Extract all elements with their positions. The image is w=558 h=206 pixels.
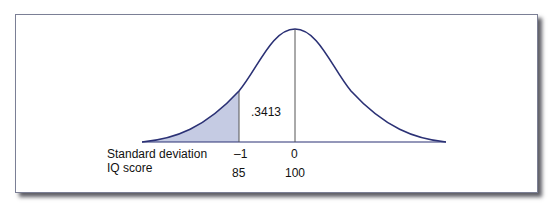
iq-tick-85: 85 xyxy=(232,166,245,180)
area-value-label: .3413 xyxy=(251,105,281,119)
normal-curve-plot xyxy=(0,0,558,206)
shaded-tail-area xyxy=(142,91,239,142)
iq-tick-100: 100 xyxy=(285,166,305,180)
sd-tick-minus1: –1 xyxy=(234,147,247,161)
iq-row-title: IQ score xyxy=(107,161,152,175)
normal-curve xyxy=(142,29,446,142)
sd-row-title: Standard deviation xyxy=(107,147,207,161)
sd-tick-0: 0 xyxy=(291,147,298,161)
